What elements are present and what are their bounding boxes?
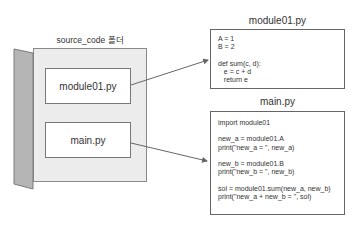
code-title-module01: module01.py (210, 15, 345, 26)
code-block-main: import module01 new_a = module01.A print… (210, 111, 345, 215)
arrow-module01 (131, 60, 208, 85)
code-title-main: main.py (210, 96, 345, 107)
arrow-main (131, 143, 207, 161)
code-block-module01: A = 1 B = 2 def sum(c, d): e = c + d ret… (210, 29, 345, 89)
